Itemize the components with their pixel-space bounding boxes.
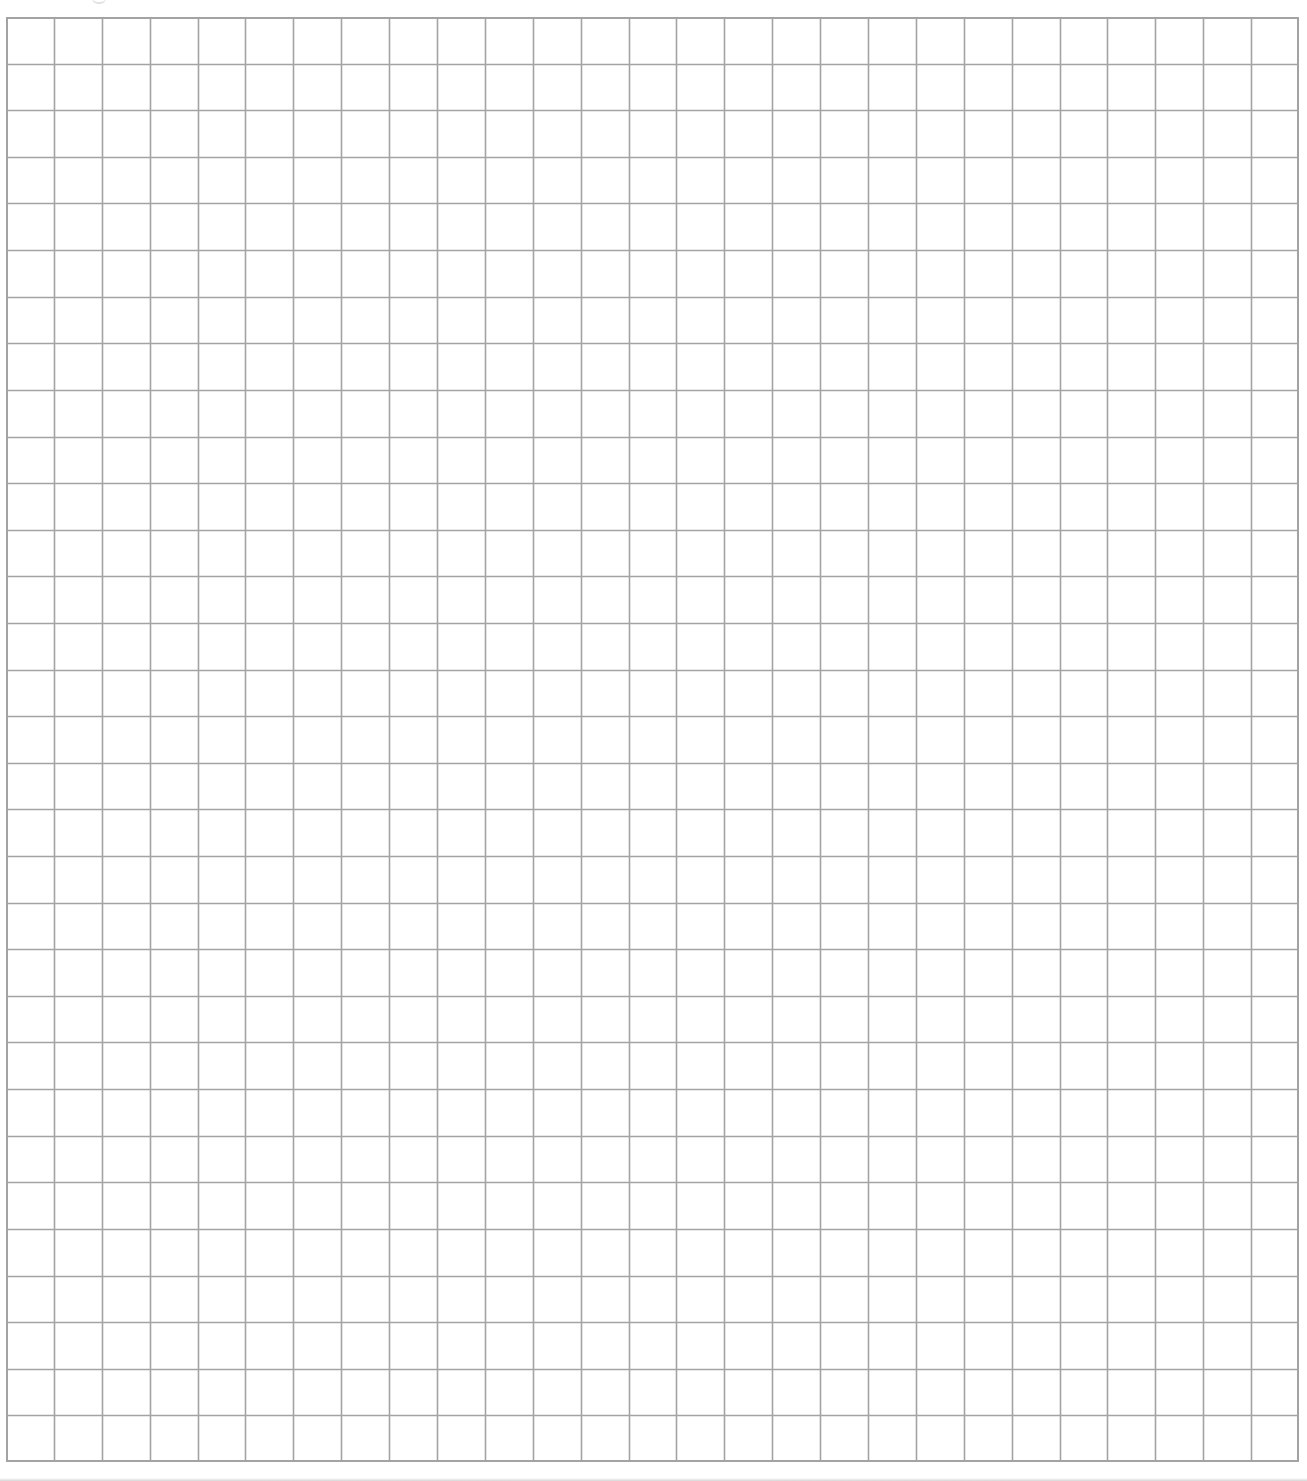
cropped-header-fragment [92,0,106,4]
graph-paper-page [0,0,1307,1481]
grid-lines [6,17,1299,1462]
grid-area [6,17,1299,1462]
